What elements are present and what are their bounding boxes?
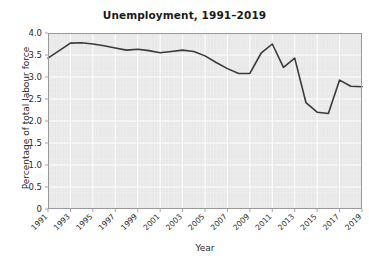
x-tick-label: 2017 [321,212,341,232]
x-tick-label: 2019 [343,212,363,232]
y-tick-label: 0 [37,204,42,214]
y-tick-label: 3.5 [28,50,42,60]
y-tick-label: 2.5 [28,94,42,104]
x-axis-label: Year [48,243,362,253]
chart-figure: Unemployment, 1991–2019 Percentage of to… [0,0,369,259]
x-tick-label: 1991 [29,212,49,232]
x-tick-label: 2001 [142,212,162,232]
x-axis-ticks: 1991199319951997199920012003200520072009… [29,209,363,232]
x-tick-label: 1995 [74,212,94,232]
y-axis-ticks: 00.51.01.52.02.53.03.54.0 [28,28,48,214]
x-tick-label: 1993 [52,212,72,232]
x-tick-label: 2013 [276,212,296,232]
y-tick-label: 4.0 [28,28,42,38]
x-tick-label: 2003 [164,212,184,232]
y-tick-label: 1.0 [28,160,42,170]
x-tick-label: 1999 [119,212,139,232]
x-tick-label: 2011 [254,212,274,232]
x-tick-label: 2007 [209,212,229,232]
plot-area: 00.51.01.52.02.53.03.54.0 19911993199519… [0,0,369,259]
x-tick-label: 1997 [97,212,117,232]
y-tick-label: 0.5 [28,182,42,192]
x-tick-label: 2005 [186,212,206,232]
y-tick-label: 3.0 [28,72,42,82]
y-tick-label: 1.5 [28,138,42,148]
x-tick-label: 2009 [231,212,251,232]
x-tick-label: 2015 [299,212,319,232]
y-tick-label: 2.0 [28,116,42,126]
